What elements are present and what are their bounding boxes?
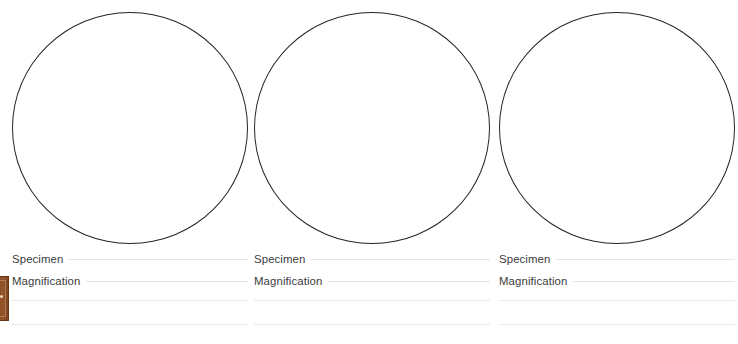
door-knob-icon	[0, 295, 3, 298]
label-lines-row: Specimen Magnification Specimen Magnific…	[0, 248, 738, 344]
magnification-label: Magnification	[254, 274, 328, 288]
blank-field-3a	[499, 300, 735, 318]
blank-write-line[interactable]	[254, 324, 490, 325]
drawing-panel-2	[254, 12, 490, 244]
magnification-field-3: Magnification	[499, 274, 735, 292]
label-panel-3: Specimen Magnification	[499, 248, 735, 344]
blank-field-3b	[499, 324, 735, 342]
magnification-write-line[interactable]	[328, 281, 490, 282]
magnification-field-2: Magnification	[254, 274, 490, 292]
label-panel-2: Specimen Magnification	[254, 248, 490, 344]
magnification-write-line[interactable]	[86, 281, 248, 282]
field-of-view-circle-2[interactable]	[254, 12, 490, 244]
specimen-label: Specimen	[499, 252, 556, 266]
blank-write-line[interactable]	[499, 300, 735, 301]
specimen-label: Specimen	[254, 252, 311, 266]
blank-field-1b	[12, 324, 248, 342]
specimen-label: Specimen	[12, 252, 69, 266]
specimen-field-3: Specimen	[499, 252, 735, 270]
drawing-circles-row	[0, 0, 738, 248]
specimen-field-1: Specimen	[12, 252, 248, 270]
blank-write-line[interactable]	[12, 324, 248, 325]
blank-field-2a	[254, 300, 490, 318]
wooden-door-graphic	[0, 276, 9, 321]
blank-write-line[interactable]	[12, 300, 248, 301]
specimen-write-line[interactable]	[556, 259, 735, 260]
label-panel-1: Specimen Magnification	[12, 248, 248, 344]
magnification-label: Magnification	[499, 274, 573, 288]
magnification-field-1: Magnification	[12, 274, 248, 292]
blank-field-2b	[254, 324, 490, 342]
blank-write-line[interactable]	[499, 324, 735, 325]
drawing-panel-1	[12, 12, 248, 244]
blank-write-line[interactable]	[254, 300, 490, 301]
specimen-write-line[interactable]	[69, 259, 248, 260]
worksheet-page: Specimen Magnification Specimen Magnific…	[0, 0, 738, 344]
door-panel-outline	[0, 280, 6, 317]
drawing-panel-3	[499, 12, 735, 244]
field-of-view-circle-3[interactable]	[499, 12, 735, 244]
specimen-field-2: Specimen	[254, 252, 490, 270]
field-of-view-circle-1[interactable]	[12, 12, 248, 244]
magnification-label: Magnification	[12, 274, 86, 288]
magnification-write-line[interactable]	[573, 281, 735, 282]
specimen-write-line[interactable]	[311, 259, 490, 260]
blank-field-1a	[12, 300, 248, 318]
